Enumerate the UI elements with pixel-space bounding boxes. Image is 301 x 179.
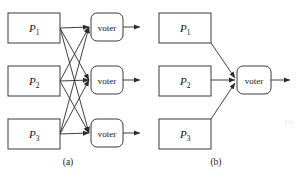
voter-label-1-b: voter [245,76,264,86]
voter-label-2-a: voter [98,76,117,86]
voter-label-3-a: voter [98,129,117,139]
figure-root: P1 P2 P3 voter voter voter (a) [0,0,301,179]
voter-label-1-a: voter [98,23,117,33]
panel-caption-a: (a) [63,157,74,168]
panel-caption-b: (b) [210,157,221,168]
panel-a: P1 P2 P3 voter voter voter (a) [8,13,140,168]
panel-b: P1 P2 P3 voter (b) [159,13,290,168]
panel-b-edges [211,43,235,119]
panel-a-edges [60,27,89,134]
figure-canvas: P1 P2 P3 voter voter voter (a) [0,0,301,179]
margin-bleed-text: I s ( [285,118,301,156]
